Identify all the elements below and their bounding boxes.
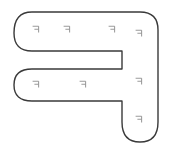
figure-canvas [0, 0, 176, 154]
f-shaped-polygon-svg [0, 0, 176, 154]
f-shaped-polygon-outline [14, 12, 158, 142]
